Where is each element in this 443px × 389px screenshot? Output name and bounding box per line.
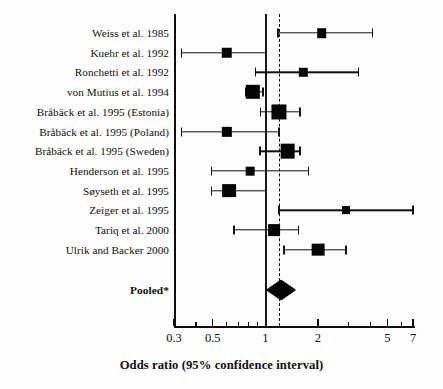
x-tick-0_9: [257, 322, 258, 326]
confidence-interval-cap-high: [298, 226, 299, 235]
confidence-interval-line: [211, 190, 265, 191]
effect-size-marker: [280, 144, 295, 159]
confidence-interval-cap-low: [255, 68, 256, 77]
confidence-interval-cap-high: [308, 166, 309, 175]
effect-size-marker: [342, 206, 350, 214]
confidence-interval-cap-low: [259, 147, 260, 156]
study-label-11: Ulrik and Backer 2000: [66, 244, 169, 255]
study-label-3: von Mutius et al. 1994: [67, 87, 169, 98]
effect-size-marker: [268, 224, 280, 236]
confidence-interval-cap-high: [278, 127, 279, 136]
x-tick-7: [412, 319, 413, 326]
x-tick-0_5: [212, 319, 213, 326]
pooled-label: Pooled*: [130, 285, 169, 296]
confidence-interval-cap-high: [262, 88, 263, 97]
x-tick-0_4: [195, 322, 196, 326]
x-tick-label-1: 1: [262, 332, 268, 344]
x-tick-4: [370, 322, 371, 326]
effect-size-marker: [317, 28, 327, 38]
study-label-6: Bråbäck et al. 1995 (Sweden): [35, 146, 169, 157]
effect-size-marker: [221, 47, 232, 58]
confidence-interval-cap-high: [358, 68, 359, 77]
x-axis-title: Odds ratio (95% confidence interval): [0, 358, 443, 373]
confidence-interval-cap-high: [345, 245, 346, 254]
x-tick-5: [387, 319, 388, 326]
effect-size-marker: [272, 104, 287, 119]
effect-size-marker: [246, 85, 260, 99]
effect-size-marker: [246, 167, 255, 176]
confidence-interval-cap-low: [181, 127, 182, 136]
confidence-interval-cap-high: [372, 29, 373, 38]
confidence-interval-cap-low: [260, 107, 261, 116]
study-label-8: Søyseth et al. 1995: [83, 185, 169, 196]
pooled-diamond: [265, 280, 296, 301]
confidence-interval-cap-high: [412, 206, 413, 215]
study-label-9: Zeiger et al. 1995: [89, 205, 169, 216]
study-label-5: Bråbäck et al. 1995 (Poland): [39, 126, 169, 137]
study-label-10: Tariq et al. 2000: [95, 225, 169, 236]
effect-size-marker: [222, 184, 236, 198]
x-tick-label-0_5: 0.5: [205, 332, 221, 344]
confidence-interval-cap-low: [211, 166, 212, 175]
x-tick-0_7: [238, 322, 239, 326]
confidence-interval-cap-low: [283, 245, 284, 254]
x-tick-label-7: 7: [410, 332, 416, 344]
confidence-interval-cap-high: [299, 107, 300, 116]
confidence-interval-cap-low: [277, 29, 278, 38]
x-tick-label-0_3: 0.3: [166, 332, 182, 344]
confidence-interval-cap-low: [181, 48, 182, 57]
effect-size-marker: [299, 68, 307, 76]
study-label-1: Kuehr et al. 1992: [90, 47, 169, 58]
study-label-7: Henderson et al. 1995: [70, 165, 169, 176]
x-tick-label-5: 5: [384, 332, 390, 344]
confidence-interval-line: [234, 229, 299, 230]
pooled-diamond-shape: [265, 280, 296, 301]
x-tick-0_8: [248, 322, 249, 326]
x-tick-3: [348, 322, 349, 326]
x-tick-0_3: [173, 319, 174, 326]
study-label-2: Ronchetti et al. 1992: [75, 67, 169, 78]
confidence-interval-cap-low: [278, 206, 279, 215]
forest-plot: 0.30.51257Weiss et al. 1985Kuehr et al. …: [0, 0, 443, 389]
x-tick-label-2: 2: [315, 332, 321, 344]
confidence-interval-cap-high: [265, 186, 266, 195]
x-axis-spine: [174, 326, 415, 328]
x-tick-0_6: [226, 322, 227, 326]
y-axis-spine: [174, 14, 176, 327]
effect-size-marker: [312, 243, 325, 256]
study-label-4: Bråbäck et al. 1995 (Estonia): [37, 106, 169, 117]
x-tick-2: [317, 319, 318, 326]
confidence-interval-cap-high: [299, 147, 300, 156]
study-label-0: Weiss et al. 1985: [92, 28, 169, 39]
confidence-interval-line: [211, 170, 308, 171]
effect-size-marker: [221, 126, 231, 136]
x-tick-6: [401, 322, 402, 326]
confidence-interval-cap-low: [211, 186, 212, 195]
confidence-interval-cap-low: [233, 226, 234, 235]
confidence-interval-cap-high: [265, 48, 266, 57]
